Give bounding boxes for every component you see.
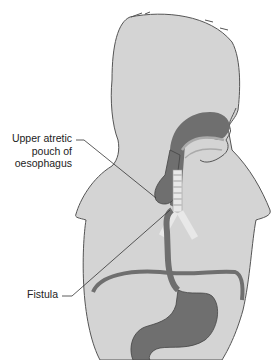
pouch-label-line2: pouch of xyxy=(4,145,72,158)
pouch-label-line1: Upper atretic xyxy=(4,132,72,145)
pouch-label-line3: oesophagus xyxy=(4,157,72,170)
fistula-label: Fistula xyxy=(18,288,58,301)
upper-atretic-pouch-label: Upper atretic pouch of oesophagus xyxy=(4,132,72,170)
diagram-illustration xyxy=(0,0,276,360)
